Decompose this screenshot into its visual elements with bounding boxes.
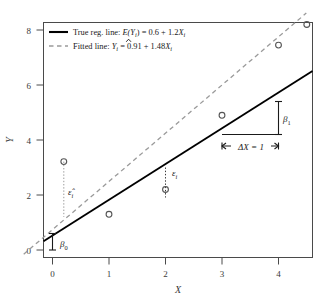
y-tick-label-8: 8: [27, 26, 32, 36]
y-tick-label-0: 0: [27, 246, 32, 256]
x-tick-label-0: 0: [50, 269, 55, 279]
y-tick-label-6: 6: [27, 81, 32, 91]
y-tick-label-4: 4: [27, 136, 32, 146]
legend-entry-true-line: True reg. line: E(Yi) = 0.6 + 1.2Xi: [73, 28, 186, 38]
x-tick-label-3: 3: [220, 269, 225, 279]
y-tick-label-2: 2: [27, 191, 32, 201]
legend-entry-fitted-line: Fitted line: Yi = 0.91 + 1.48Xi: [73, 42, 172, 52]
x-tick-label-4: 4: [276, 269, 281, 279]
x-tick-label-2: 2: [163, 269, 168, 279]
x-axis-title: X: [174, 284, 182, 295]
chart-container: 0 1 2 3 4 X 0 2 4 6 8 Y β0: [0, 0, 325, 301]
delta-x-label: ΔX = 1: [237, 142, 264, 152]
regression-scatter-chart: 0 1 2 3 4 X 0 2 4 6 8 Y β0: [0, 0, 325, 301]
x-tick-label-1: 1: [107, 269, 112, 279]
